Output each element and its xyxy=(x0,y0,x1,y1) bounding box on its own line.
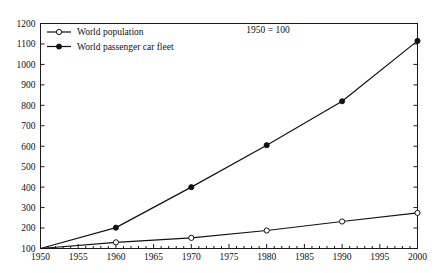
chart-figure: 1002003004005006007008009001000110012001… xyxy=(0,0,443,273)
y-tick-label: 300 xyxy=(21,203,36,213)
x-tick-label: 1970 xyxy=(182,252,201,262)
y-tick-label: 1200 xyxy=(17,19,36,29)
data-point-filled xyxy=(340,99,345,104)
y-tick-label: 800 xyxy=(21,101,36,111)
data-point-open xyxy=(415,210,420,215)
x-tick-label: 1955 xyxy=(69,252,88,262)
series-line-1 xyxy=(41,213,418,249)
x-tick-label: 1960 xyxy=(106,252,125,262)
x-tick-label: 1995 xyxy=(370,252,389,262)
y-tick-label: 600 xyxy=(21,142,36,152)
data-point-filled xyxy=(189,185,194,190)
x-tick-label: 1975 xyxy=(220,252,239,262)
data-point-open xyxy=(189,235,194,240)
y-tick-label: 1000 xyxy=(17,60,36,70)
data-point-open xyxy=(264,228,269,233)
y-tick-label: 1100 xyxy=(17,39,36,49)
chart-annotation: 1950 = 100 xyxy=(246,25,290,35)
data-point-filled xyxy=(264,143,269,148)
data-point-open xyxy=(113,240,118,245)
x-tick-label: 1950 xyxy=(31,252,50,262)
y-tick-label: 500 xyxy=(21,162,36,172)
legend-label-2: World passenger car fleet xyxy=(77,42,174,52)
series-line-2 xyxy=(41,41,418,249)
legend-label-1: World population xyxy=(77,27,144,37)
y-tick-label: 200 xyxy=(21,223,36,233)
x-tick-label: 1990 xyxy=(333,252,352,262)
x-tick-label: 1965 xyxy=(144,252,163,262)
legend-marker-filled xyxy=(56,44,61,49)
plot-frame xyxy=(41,24,418,249)
x-tick-label: 1985 xyxy=(295,252,314,262)
data-point-open xyxy=(340,219,345,224)
line-chart: 1002003004005006007008009001000110012001… xyxy=(0,0,443,273)
legend-marker-open xyxy=(56,29,61,34)
data-point-filled xyxy=(415,38,420,43)
y-tick-label: 900 xyxy=(21,80,36,90)
y-tick-label: 400 xyxy=(21,183,36,193)
data-point-filled xyxy=(113,225,118,230)
x-tick-label: 1980 xyxy=(257,252,276,262)
x-tick-label: 2000 xyxy=(408,252,427,262)
y-tick-label: 700 xyxy=(21,121,36,131)
